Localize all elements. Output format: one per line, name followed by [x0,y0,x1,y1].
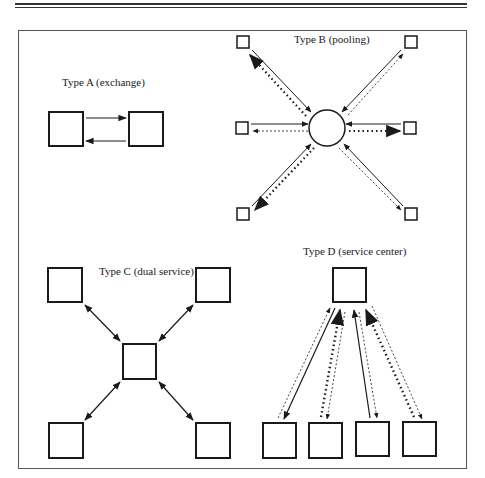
panel-d-service-center [263,268,436,458]
node-d-bottom-4 [403,422,436,456]
panel-a-exchange [49,112,163,146]
node-c-top-right [196,268,230,302]
node-a-right [129,112,163,146]
node-b-bottom-right [405,208,417,220]
pool-circle [309,110,345,146]
node-b-mid-left [236,122,248,134]
panel-c-dual-service [48,268,230,458]
node-d-bottom-2 [309,423,342,458]
node-b-mid-right [404,122,416,134]
node-c-bottom-left [49,423,83,458]
node-d-center [333,268,366,302]
node-d-bottom-3 [356,422,389,456]
node-b-bottom-left [237,208,249,220]
node-d-bottom-1 [263,423,296,458]
node-c-bottom-right [196,423,230,458]
panel-b-pooling [236,36,417,220]
node-b-top-right [405,36,417,48]
diagram-canvas [0,0,485,478]
node-c-top-left [48,268,82,302]
node-a-left [49,112,83,146]
node-b-top-left [237,36,249,48]
node-c-center [123,344,156,379]
